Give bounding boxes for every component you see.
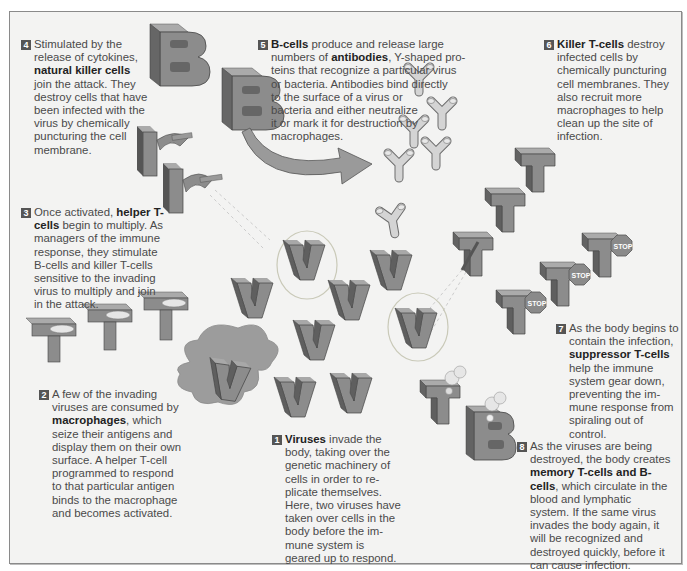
step-text: response, they stimulate [21, 246, 176, 259]
step-text: system gear down, [556, 375, 681, 388]
key-term: Viruses [285, 433, 326, 445]
step-text: destroyed quickly, before it [517, 546, 679, 559]
step-7-suppressor-t-cells: 7As the body begins to contain the infec… [556, 322, 681, 441]
step-text: bacteria and either neutralize [258, 104, 473, 117]
step-text: also recruit more [544, 91, 676, 104]
step-text: release of cytokines, [21, 51, 156, 64]
step-text: destroy cells that have [21, 91, 156, 104]
step-text: binds to the macrophage [39, 494, 189, 507]
step-text: will be recognized and [517, 532, 679, 545]
step-text: infection. [544, 130, 676, 143]
key-term: cells [530, 480, 555, 492]
svg-text:STOP: STOP [572, 272, 591, 279]
step-text: sensitive to the invading [21, 272, 176, 285]
step-text: destroy [624, 38, 665, 50]
step-number-badge: 2 [39, 390, 49, 400]
viruses [231, 231, 448, 417]
step-text: contain the infection, [556, 335, 681, 348]
step-text: display them on their own [39, 441, 189, 454]
step-6-killer-t-cells: 6Killer T-cells destroy infected cells b… [544, 38, 676, 144]
step-text: , which circulate in the [555, 480, 667, 492]
step-5-b-cells: 5B-cells produce and release large numbe… [258, 38, 473, 144]
key-term: Killer T-cells [557, 38, 624, 50]
step-text: body, taking over the [272, 446, 412, 459]
step-number-badge: 3 [21, 208, 31, 218]
key-term: suppressor T-cells [569, 348, 670, 360]
step-text: cell membranes. They [544, 78, 676, 91]
step-text: infected cells by [544, 51, 676, 64]
step-8-memory-cells: 8As the viruses are being destroyed, the… [517, 440, 679, 571]
step-text: As the body begins to [569, 322, 679, 334]
step-text: body before the im- [272, 525, 412, 538]
step-number-badge: 6 [544, 40, 554, 50]
step-text: Once activated, [34, 206, 116, 218]
suppressor-t-cells: STOP STOP STOP [496, 233, 633, 334]
step-text: invade the [326, 433, 382, 445]
step-text: seize their antigens and [39, 428, 189, 441]
step-text: virus by chemically [21, 117, 156, 130]
step-1-viruses: 1Viruses invade the body, taking over th… [272, 433, 412, 565]
step-text: spiraling out of control. [556, 414, 681, 440]
key-term: macrophages [52, 414, 126, 426]
macrophage [178, 325, 279, 405]
svg-text:STOP: STOP [528, 300, 547, 307]
step-number-badge: 1 [272, 435, 282, 445]
step-text: genetic machinery of [272, 459, 412, 472]
step-text: to the surface of a virus or [258, 91, 473, 104]
step-4-natural-killer-cells: 4Stimulated by the release of cytokines,… [21, 38, 156, 157]
step-text: cells in order to re- [272, 473, 412, 486]
step-text: begin to multiply. As [59, 219, 163, 231]
step-number-badge: 8 [517, 442, 527, 452]
svg-text:STOP: STOP [614, 243, 633, 250]
step-number-badge: 5 [258, 40, 268, 50]
step-text: or bacteria. Antibodies bind directly [258, 78, 473, 91]
step-text: plicate themselves. [272, 486, 412, 499]
step-text: numbers of [271, 51, 331, 63]
step-text: , Y-shaped pro- [388, 51, 465, 63]
step-text: clean up the site of [544, 117, 676, 130]
memory-cells [420, 366, 516, 460]
step-text: geared up to respond. [272, 552, 412, 565]
key-term: B-cells [271, 38, 308, 50]
step-text: programmed to respond [39, 467, 189, 480]
key-term: memory T-cells and B- [530, 466, 652, 478]
step-text: join the attack. They [21, 78, 156, 91]
step-text: macrophages. [258, 130, 473, 143]
step-text: help the immune [556, 362, 681, 375]
step-number-badge: 7 [556, 324, 566, 334]
step-text: taken over cells in the [272, 512, 412, 525]
step-text: A few of the invading [52, 388, 157, 400]
step-text: and becomes activated. [39, 507, 189, 520]
step-text: system. If the same virus [517, 506, 679, 519]
step-2-macrophages: 2A few of the invading viruses are consu… [39, 388, 189, 520]
step-number-badge: 4 [21, 40, 31, 50]
step-text: teins that recognize a particular virus [258, 64, 473, 77]
step-text: surface. A helper T-cell [39, 454, 189, 467]
step-text: membrane. [21, 144, 156, 157]
step-text: As the viruses are being [530, 440, 652, 452]
step-text: virus to multiply and join [21, 285, 176, 298]
step-text: to that particular antigen [39, 480, 189, 493]
key-term: natural killer cells [34, 64, 130, 76]
step-text: macrophages to help [544, 104, 676, 117]
step-text: can cause infection. [517, 559, 679, 571]
step-3-helper-t-cells: 3Once activated, helper T- cells begin t… [21, 206, 176, 312]
step-text: in the attack. [21, 298, 176, 311]
step-text: produce and release large [308, 38, 444, 50]
step-text: viruses are consumed by [39, 401, 189, 414]
step-text: destroyed, the body creates [517, 453, 679, 466]
step-text: invades the body again, it [517, 519, 679, 532]
step-text: preventing the im- [556, 388, 681, 401]
b-cell-large [150, 24, 210, 86]
key-term: antibodies [331, 51, 388, 63]
step-text: B-cells and killer T-cells [21, 259, 176, 272]
step-text: Here, two viruses have [272, 499, 412, 512]
step-text: , which [126, 414, 161, 426]
step-text: puncturing the cell [21, 130, 156, 143]
step-text: chemically puncturing [544, 64, 676, 77]
key-term: helper T- [116, 206, 163, 218]
step-text: blood and lymphatic [517, 493, 679, 506]
step-text: Stimulated by the [34, 38, 122, 50]
step-text: it or mark it for destruction by [258, 117, 473, 130]
step-text: managers of the immune [21, 232, 176, 245]
